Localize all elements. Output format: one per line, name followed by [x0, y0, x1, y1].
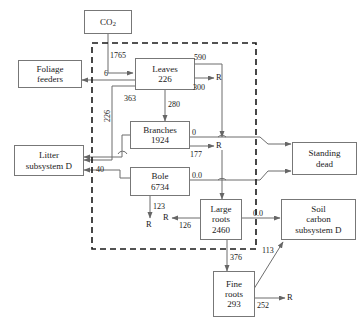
node-standing-dead[interactable]: Standing dead: [292, 142, 357, 175]
foliage-feeders-line1: Foliage: [37, 64, 64, 74]
flow-label-280: 280: [168, 101, 180, 109]
respiration-sink-branches: R: [216, 141, 222, 150]
flow-label-126: 126: [179, 222, 191, 230]
litter-line2: subsystem D: [26, 161, 72, 171]
node-foliage-feeders[interactable]: Foliage feeders: [18, 60, 82, 88]
standing-dead-line1: Standing: [308, 148, 340, 158]
connector-bole-to-litter: [84, 170, 130, 178]
flow-label-226: 226: [104, 110, 112, 122]
respiration-sink-bole: R: [146, 220, 152, 229]
node-soil-carbon-subsystem[interactable]: Soil carbon subsystem D: [281, 199, 356, 240]
leaves-label: Leaves: [152, 64, 177, 74]
large-roots-line1: Large: [211, 204, 232, 214]
carbon-flow-diagram: CO2 Foliage feeders Leaves 226 Branches …: [0, 0, 364, 331]
node-leaves[interactable]: Leaves 226: [135, 58, 195, 90]
node-co2[interactable]: CO2: [84, 10, 132, 34]
respiration-sink-large-roots: R: [163, 213, 169, 222]
large-roots-line2: roots: [212, 214, 230, 224]
flow-label-0-bole: 0.0: [192, 172, 202, 180]
foliage-feeders-line2: feeders: [37, 74, 63, 84]
flow-label-252: 252: [257, 302, 269, 310]
flow-label-1765: 1765: [110, 52, 126, 60]
node-large-roots[interactable]: Large roots 2460: [200, 199, 242, 240]
co2-label: CO2: [100, 17, 116, 28]
soil-carbon-line1: Soil: [311, 204, 326, 214]
respiration-sink-leaves: R: [216, 73, 222, 82]
soil-carbon-line3: subsystem D: [295, 225, 341, 235]
flow-label-376: 376: [230, 254, 242, 262]
flow-label-0-branches: 0: [192, 129, 196, 137]
fine-roots-line2: roots: [225, 289, 243, 299]
node-branches[interactable]: Branches 1924: [130, 121, 190, 149]
litter-line1: Litter: [39, 150, 59, 160]
connector-branches-to-standing-dead: [190, 137, 291, 144]
leaves-value: 226: [158, 74, 172, 84]
node-fine-roots[interactable]: Fine roots 293: [213, 271, 255, 317]
soil-carbon-line2: carbon: [306, 214, 331, 224]
flow-label-300: 300: [193, 84, 205, 92]
branches-label: Branches: [143, 125, 177, 135]
large-roots-value: 2460: [212, 225, 230, 235]
flow-label-177: 177: [190, 151, 202, 159]
flow-label-0-roots: 0.0: [253, 210, 263, 218]
node-litter-subsystem[interactable]: Litter subsystem D: [14, 145, 84, 176]
fine-roots-line1: Fine: [226, 279, 242, 289]
branches-value: 1924: [151, 135, 169, 145]
bole-value: 6734: [151, 182, 169, 192]
flow-label-40: 40: [96, 166, 104, 174]
connector-bole-to-standing-dead: [190, 171, 291, 180]
flow-label-123: 123: [153, 203, 165, 211]
flow-label-590: 590: [194, 54, 206, 62]
respiration-sink-fine-roots: R: [287, 293, 293, 302]
flow-label-363: 363: [124, 95, 136, 103]
node-bole[interactable]: Bole 6734: [130, 167, 190, 196]
flow-label-6: 6: [104, 70, 108, 78]
fine-roots-value: 293: [227, 299, 241, 309]
flow-label-113: 113: [262, 247, 274, 255]
bole-label: Bole: [152, 171, 169, 181]
connector-branches-to-litter: [84, 135, 130, 157]
standing-dead-line2: dead: [316, 159, 333, 169]
